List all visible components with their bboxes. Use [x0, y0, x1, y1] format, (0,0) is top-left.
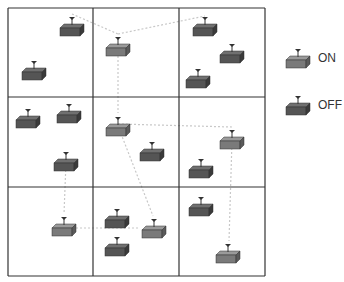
sensor-node-on-icon: [142, 219, 166, 238]
sensor-node-off-icon: [22, 61, 46, 80]
sensor-node-off-icon: [60, 17, 84, 36]
sensor-node-off-icon: [193, 17, 217, 36]
sensor-node-on-icon: [106, 117, 130, 136]
sensor-node-off-icon: [57, 104, 81, 123]
network-diagram: [0, 0, 344, 282]
sensor-node-off-icon: [105, 209, 129, 228]
sensor-node-off-icon: [189, 159, 213, 178]
legend-on-label: ON: [318, 51, 336, 65]
sensor-node-on-icon: [52, 217, 76, 236]
legend-icons: [286, 49, 310, 115]
sensor-node-off-icon: [189, 197, 213, 216]
sensor-node-off-icon: [54, 152, 78, 171]
network-link: [118, 126, 153, 216]
legend-on-icon: [286, 49, 310, 68]
sensor-node-on-icon: [106, 37, 130, 56]
legend-off-icon: [286, 96, 310, 115]
sensor-node-off-icon: [220, 44, 244, 63]
network-link: [118, 16, 205, 34]
sensor-node-off-icon: [105, 237, 129, 256]
sensor-node-off-icon: [140, 142, 164, 161]
sensor-node-on-icon: [216, 244, 240, 263]
sensor-node-off-icon: [186, 69, 210, 88]
sensor-node-off-icon: [16, 109, 40, 128]
network-link: [118, 124, 232, 127]
sensor-node-on-icon: [220, 130, 244, 149]
network-link: [229, 140, 232, 241]
legend-off-label: OFF: [318, 98, 342, 112]
node-layer: [16, 17, 244, 263]
